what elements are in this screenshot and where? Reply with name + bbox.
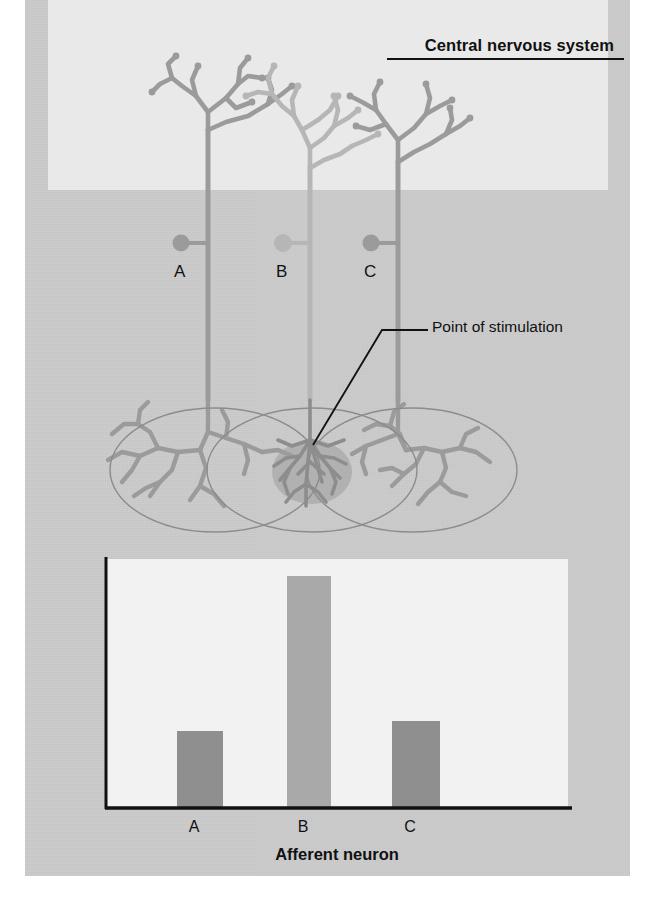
neuron-a xyxy=(108,53,295,506)
chart-tick-a: A xyxy=(174,818,214,836)
chart-tick-c: C xyxy=(390,818,430,836)
soma-label-c: C xyxy=(364,262,376,282)
soma-label-b: B xyxy=(276,262,287,282)
soma-label-a: A xyxy=(174,262,185,282)
chart-tick-b: B xyxy=(283,818,323,836)
chart-x-axis-label: Afferent neuron xyxy=(106,845,568,864)
chart-axis-lines xyxy=(100,555,575,815)
neuron-receptive-field-figure: Central nervous system xyxy=(0,0,656,898)
point-of-stimulation-label: Point of stimulation xyxy=(432,318,563,336)
neuron-c xyxy=(347,79,490,504)
neuron-b xyxy=(243,63,382,400)
neuron-diagram xyxy=(0,0,656,560)
